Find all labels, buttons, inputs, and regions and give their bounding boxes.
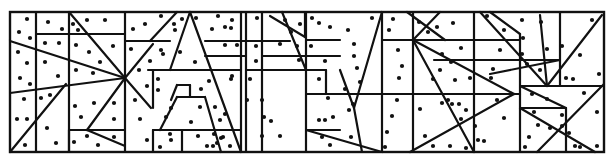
- dot: [298, 22, 302, 26]
- dot: [169, 138, 173, 142]
- dot: [317, 21, 321, 25]
- dot: [521, 36, 525, 40]
- line-segment: [10, 41, 125, 78]
- dot: [347, 108, 351, 112]
- dot: [289, 30, 293, 34]
- dot: [431, 144, 435, 148]
- dot: [370, 16, 374, 20]
- dot: [449, 60, 453, 64]
- line-segment: [160, 97, 177, 130]
- dot: [112, 101, 116, 105]
- dot: [595, 144, 599, 148]
- line-segment: [150, 12, 177, 41]
- dot: [137, 68, 141, 72]
- dot: [96, 143, 100, 147]
- dot: [387, 28, 391, 32]
- dot: [571, 77, 575, 81]
- dot: [560, 124, 564, 128]
- dot: [194, 16, 198, 20]
- dot: [215, 141, 219, 145]
- dot: [295, 44, 299, 48]
- line-segment: [87, 130, 125, 146]
- line-segment: [170, 12, 190, 70]
- dot: [525, 62, 529, 66]
- dot: [43, 60, 47, 64]
- dot: [346, 28, 350, 32]
- dot: [39, 96, 43, 100]
- dot: [457, 102, 461, 106]
- dot: [28, 82, 32, 86]
- dot: [498, 48, 502, 52]
- dot: [173, 28, 177, 32]
- dot: [260, 134, 264, 138]
- polygon-dot-canvas: [0, 0, 614, 162]
- dot: [482, 139, 486, 143]
- dot: [212, 132, 216, 136]
- dot: [74, 43, 78, 47]
- dot: [320, 135, 324, 139]
- dot: [138, 117, 142, 121]
- dot: [180, 17, 184, 21]
- dot: [169, 106, 173, 110]
- dot: [351, 102, 355, 106]
- dot: [158, 145, 162, 149]
- dot: [28, 36, 32, 40]
- dot: [448, 144, 452, 148]
- dot: [331, 115, 335, 119]
- line-segments: [10, 12, 604, 152]
- dot: [85, 134, 89, 138]
- dot: [164, 115, 168, 119]
- dot: [523, 145, 527, 149]
- dot: [48, 93, 52, 97]
- dot: [221, 135, 225, 139]
- dot: [98, 60, 102, 64]
- dot: [133, 98, 137, 102]
- dot: [352, 42, 356, 46]
- dot: [560, 44, 564, 48]
- dot: [391, 17, 395, 21]
- dot: [545, 47, 549, 51]
- dot: [56, 74, 60, 78]
- dot: [87, 50, 91, 54]
- dot: [235, 43, 239, 47]
- dot: [156, 88, 160, 92]
- dot: [476, 138, 480, 142]
- dot: [178, 50, 182, 54]
- dot: [223, 112, 227, 116]
- dot: [578, 53, 582, 57]
- dot: [223, 43, 227, 47]
- dot: [539, 20, 543, 24]
- dot: [172, 22, 176, 26]
- dot: [532, 110, 536, 114]
- dot: [18, 76, 22, 80]
- dot: [248, 77, 252, 81]
- dot: [245, 98, 249, 102]
- dot: [417, 20, 421, 24]
- dot: [464, 108, 468, 112]
- dot: [85, 18, 89, 22]
- dot: [578, 145, 582, 149]
- dot: [595, 110, 599, 114]
- dot: [564, 76, 568, 80]
- dot: [156, 77, 160, 81]
- dot: [92, 101, 96, 105]
- dot: [73, 104, 77, 108]
- dot: [23, 143, 27, 147]
- dot: [223, 25, 227, 29]
- dot: [145, 138, 149, 142]
- dot: [283, 18, 287, 22]
- dot: [473, 124, 477, 128]
- dot: [193, 60, 197, 64]
- dot: [520, 18, 524, 22]
- dot: [159, 14, 163, 18]
- line-segment: [125, 78, 151, 108]
- dot: [189, 120, 193, 124]
- dot: [71, 22, 75, 26]
- dot: [72, 140, 76, 144]
- dot: [597, 72, 601, 76]
- dot: [74, 68, 78, 72]
- dot: [385, 130, 389, 134]
- dot: [459, 117, 463, 121]
- dot: [431, 77, 435, 81]
- dot: [468, 76, 472, 80]
